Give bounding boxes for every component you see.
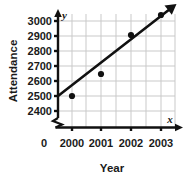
x-tick-label-2000: 2000 — [60, 137, 84, 149]
data-point-2003 — [158, 12, 164, 18]
data-point-2001 — [98, 71, 104, 77]
x-tick-label-2003: 2003 — [149, 137, 173, 149]
y-tick-labels: 3000 2900 2800 2700 2600 2500 2400 — [28, 15, 52, 117]
y-tick-label-2400: 2400 — [28, 105, 52, 117]
y-tick-label-2700: 2700 — [28, 60, 52, 72]
data-point-2000 — [69, 93, 75, 99]
x-tick-label-2001: 2001 — [89, 137, 113, 149]
y-tick-label-2600: 2600 — [28, 75, 52, 87]
y-tick-label-2900: 2900 — [28, 30, 52, 42]
y-tick-label-3000: 3000 — [28, 15, 52, 27]
chart-svg: 3000 2900 2800 2700 2600 2500 2400 0 200… — [0, 0, 190, 179]
x-tick-label-2002: 2002 — [119, 137, 143, 149]
y-axis-letter: y — [60, 9, 67, 21]
x-axis-arrowhead — [175, 124, 183, 132]
y-tick-label-2800: 2800 — [28, 45, 52, 57]
y-axis-title: Attendance — [7, 40, 19, 103]
data-point-2002 — [128, 32, 134, 38]
x-axis-letter: x — [166, 113, 173, 125]
x-axis-title: Year — [100, 162, 125, 174]
attendance-vs-year-chart: 3000 2900 2800 2700 2600 2500 2400 0 200… — [0, 0, 190, 179]
x-tick-labels: 0 2000 2001 2002 2003 — [41, 137, 173, 149]
x-tick-label-0: 0 — [41, 137, 47, 149]
y-tick-label-2500: 2500 — [28, 90, 52, 102]
y-axis-arrowhead — [54, 9, 62, 17]
